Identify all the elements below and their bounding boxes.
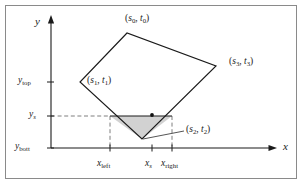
y-axis-label: y (35, 16, 40, 27)
x-tick-label-left: xleft (97, 159, 110, 169)
y-tick-label-top: ytop (18, 76, 31, 86)
vertex-label-s3: (s3, t3) (229, 57, 253, 67)
x-axis (51, 145, 277, 151)
plot-svg (0, 0, 304, 186)
y-tick-label-s: ys (29, 110, 36, 120)
y-tick-label-bott: ybott (15, 142, 30, 152)
vertex-label-s1: (s1, t1) (87, 76, 111, 86)
sample-point-dot (150, 113, 154, 117)
x-tick-label-s: xs (145, 159, 152, 169)
x-tick-label-right: xright (161, 159, 178, 169)
figure-container: y x ytop ys ybott xleft xs xright (s0, t… (0, 0, 304, 186)
x-axis-label: x (283, 141, 288, 152)
vertex-label-s2: (s2, t2) (186, 125, 210, 135)
vertex-label-s0: (s0, t0) (125, 14, 149, 24)
